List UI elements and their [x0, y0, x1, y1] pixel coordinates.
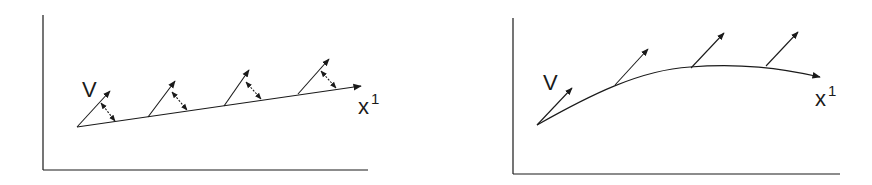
left-vector-label: V	[82, 77, 97, 102]
double-arrow-icon	[172, 92, 187, 110]
vector-arrow-icon	[766, 32, 798, 66]
left-double-arrows	[101, 71, 336, 121]
right-vectors	[537, 32, 798, 125]
left-x1-line	[77, 86, 361, 127]
diagram-canvas: V x1 V x1	[0, 0, 872, 185]
double-arrow-icon	[246, 82, 261, 99]
right-x1-curve	[537, 66, 820, 125]
left-vectors	[77, 59, 329, 127]
double-arrow-icon	[101, 103, 115, 121]
vector-arrow-icon	[298, 59, 329, 94]
left-panel: V x1	[43, 15, 379, 170]
right-panel: V x1	[513, 18, 840, 174]
vector-arrow-icon	[224, 70, 249, 106]
right-vector-label: V	[543, 70, 558, 95]
right-axis-label: x1	[815, 82, 836, 111]
double-arrow-icon	[321, 71, 336, 88]
vector-arrow-icon	[148, 81, 175, 117]
vector-arrow-icon	[691, 33, 724, 68]
left-axis-label: x1	[358, 90, 379, 119]
right-axes	[513, 18, 840, 174]
